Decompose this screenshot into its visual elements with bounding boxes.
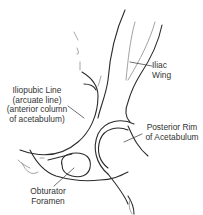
label-posterior-rim: Posterior Rim of Acetabulum	[140, 123, 203, 142]
label-posterior-rim-line2: of Acetabulum	[140, 133, 203, 143]
iliac-wing-medial-contour	[128, 22, 155, 80]
label-obturator-foramen: Obturator Foramen	[18, 187, 78, 206]
label-iliac-wing-line2: Wing	[152, 71, 171, 81]
pelvis-diagram: Iliac Wing Iliopubic Line (arcuate line)…	[0, 0, 203, 215]
iliac-wing-inner-contour	[126, 22, 135, 80]
sacral-ala-tick	[98, 76, 101, 86]
sacral-ala-curve	[84, 84, 96, 90]
label-iliopubic-line4: of acetabulum)	[0, 115, 74, 125]
sacral-mark-1	[74, 32, 78, 40]
label-obturator-line2: Foramen	[18, 197, 78, 207]
acetabulum-inner-arc	[98, 128, 128, 168]
label-iliac-wing: Iliac Wing	[152, 61, 171, 80]
iliac-wing-leader	[130, 62, 152, 66]
iliac-wing-outer-contour	[98, 10, 125, 118]
label-iliopubic-line: Iliopubic Line (arcuate line) (anterior …	[0, 86, 74, 124]
obturator-upper-line	[48, 154, 72, 160]
sacral-mark-2	[77, 48, 79, 54]
obturator-foramen-outline	[62, 153, 91, 177]
